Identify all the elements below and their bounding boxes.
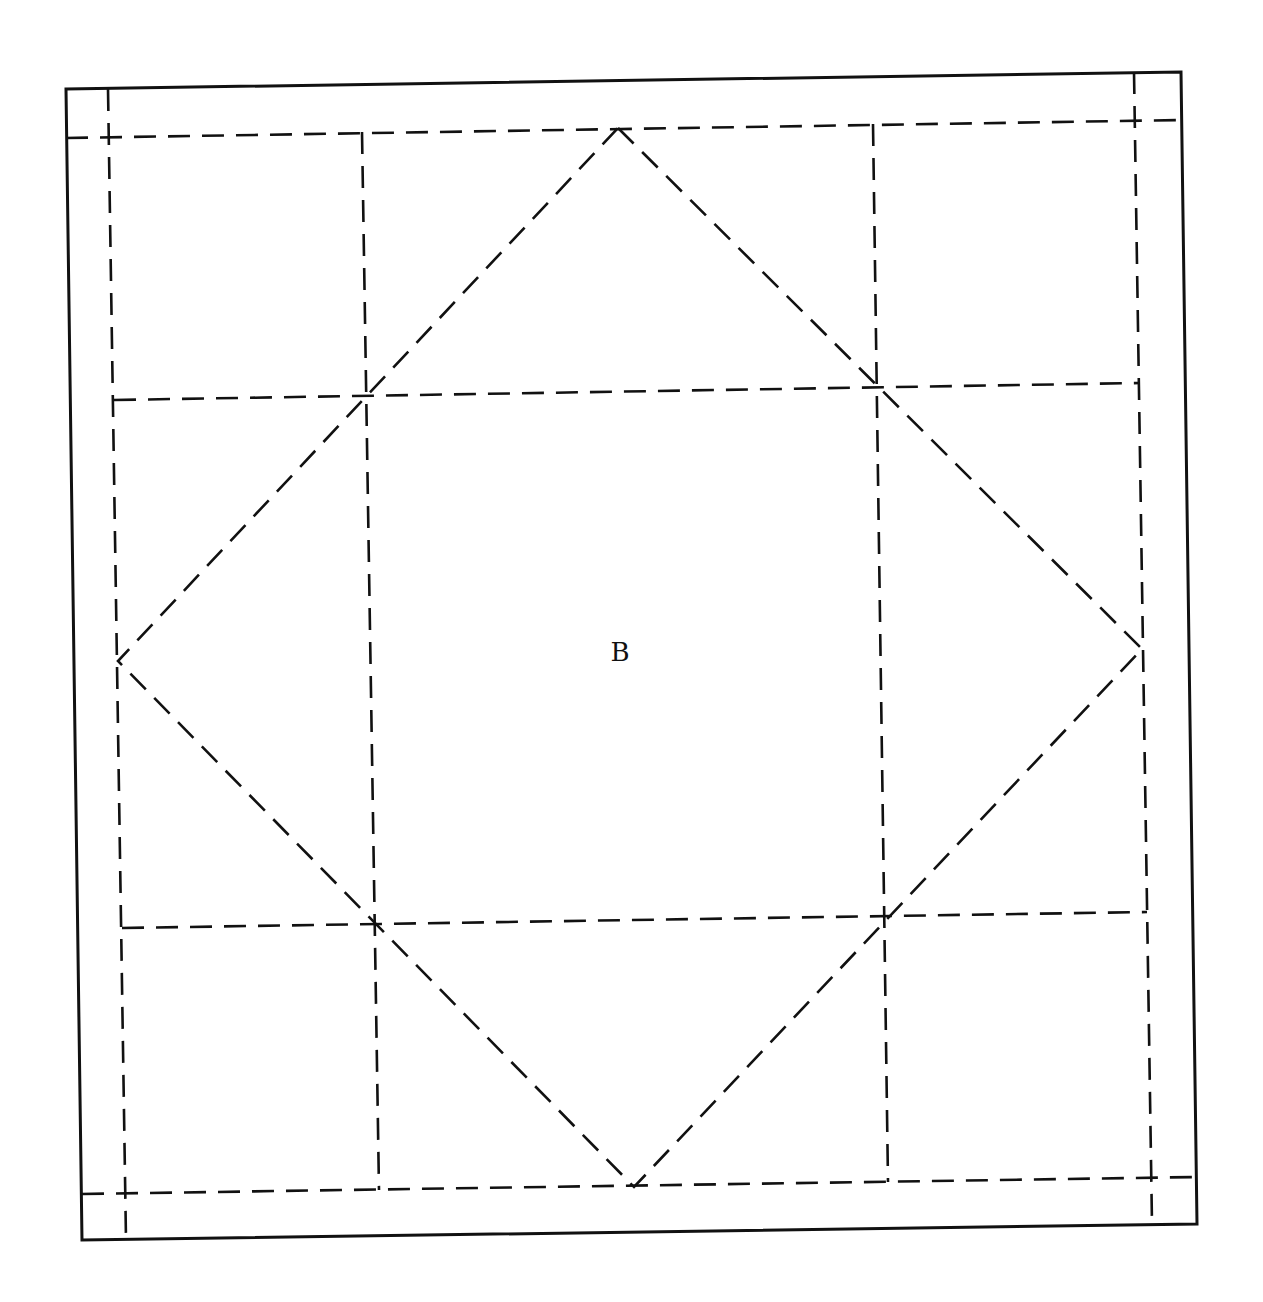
vertical-seam-line-2 — [362, 132, 379, 1190]
vertical-seam-lines — [108, 72, 1152, 1240]
vertical-seam-line-4 — [1134, 72, 1152, 1224]
horizontal-seam-line-2 — [114, 383, 1140, 400]
vertical-seam-line-1 — [108, 89, 126, 1240]
quilt-block-diagram: B — [0, 0, 1263, 1302]
center-diamond — [118, 128, 1142, 1187]
outer-border — [66, 72, 1197, 1240]
vertical-seam-line-3 — [873, 124, 888, 1182]
block-label: B — [610, 637, 629, 667]
horizontal-seam-lines — [66, 120, 1197, 1194]
horizontal-seam-line-3 — [122, 912, 1147, 928]
